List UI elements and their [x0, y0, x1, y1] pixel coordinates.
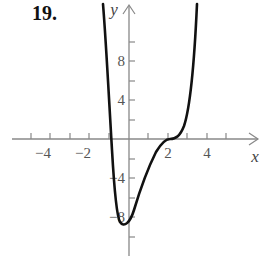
x-axis-label: x — [250, 147, 259, 166]
x-tick-label: 2 — [164, 145, 172, 161]
y-axis-label: y — [108, 0, 118, 19]
graph-figure: 19. −4 −2 2 4 x — [0, 0, 264, 264]
y-tick-label: 8 — [118, 53, 126, 69]
figure-number: 19. — [32, 2, 57, 24]
function-curve — [103, 4, 197, 225]
x-tick-label: −2 — [75, 145, 91, 161]
x-tick-label: −4 — [35, 145, 51, 161]
x-tick-label: 4 — [203, 145, 211, 161]
x-axis: −4 −2 2 4 x — [12, 133, 259, 166]
y-tick-label: −4 — [109, 170, 125, 186]
y-tick-label: 4 — [118, 92, 126, 108]
